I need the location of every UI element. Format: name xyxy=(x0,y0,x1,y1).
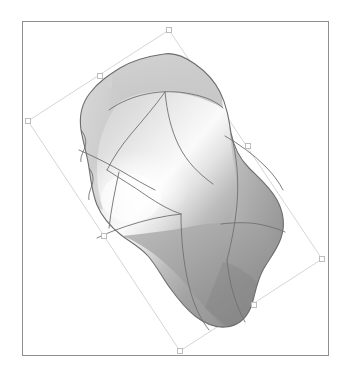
handle-top[interactable] xyxy=(167,28,172,33)
handle-bottom-left[interactable] xyxy=(102,234,107,239)
handle-bottom[interactable] xyxy=(178,349,183,354)
application-window: 3D Surface Viewport nurbs-patch-model Ro… xyxy=(0,0,347,384)
handle-top-left[interactable] xyxy=(98,74,103,79)
page-title: 3D Surface Viewport xyxy=(0,0,1,1)
handle-top-right[interactable] xyxy=(246,144,251,149)
selection-label: Rotated selection bounding box xyxy=(0,0,1,1)
handle-bottom-right[interactable] xyxy=(252,303,257,308)
surface-type-label: nurbs-patch-model xyxy=(0,0,1,1)
viewport-canvas[interactable] xyxy=(23,22,328,355)
chart-title-label: 3D free-form surface render xyxy=(0,0,1,1)
surface-specular-highlight-core xyxy=(101,174,161,222)
shaded-freeform-surface[interactable] xyxy=(76,53,286,334)
handle-right[interactable] xyxy=(320,257,325,262)
handle-left[interactable] xyxy=(26,119,31,124)
model-viewport[interactable] xyxy=(22,21,329,356)
